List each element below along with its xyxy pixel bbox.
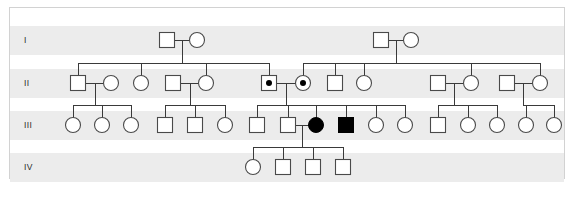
female-symbol bbox=[369, 118, 384, 133]
female-symbol bbox=[490, 118, 505, 133]
female-symbol bbox=[398, 118, 413, 133]
individual-iii16-female-unaffected[interactable] bbox=[519, 118, 534, 133]
female-symbol bbox=[95, 118, 110, 133]
figure-frame: IIIIIIIV bbox=[9, 7, 565, 179]
individual-iii10-male-affected[interactable] bbox=[339, 118, 354, 133]
individual-iii11-female-unaffected[interactable] bbox=[369, 118, 384, 133]
male-symbol bbox=[158, 118, 173, 133]
male-symbol bbox=[166, 76, 181, 91]
individual-iv2-male-unaffected[interactable] bbox=[276, 160, 291, 175]
individual-ii6-male-carrier[interactable] bbox=[262, 76, 277, 91]
female-symbol bbox=[547, 118, 562, 133]
individual-ii13-female-unaffected[interactable] bbox=[533, 76, 548, 91]
female-symbol bbox=[461, 118, 476, 133]
male-symbol bbox=[281, 118, 296, 133]
male-symbol bbox=[374, 33, 389, 48]
female-symbol bbox=[464, 76, 479, 91]
individual-i1-male-unaffected[interactable] bbox=[160, 33, 175, 48]
individual-ii10-male-unaffected[interactable] bbox=[431, 76, 446, 91]
female-symbol bbox=[357, 76, 372, 91]
male-symbol bbox=[500, 76, 515, 91]
individual-iii6-female-unaffected[interactable] bbox=[218, 118, 233, 133]
female-symbol bbox=[199, 76, 214, 91]
individual-iii3-female-unaffected[interactable] bbox=[124, 118, 139, 133]
individual-iii7-male-unaffected[interactable] bbox=[250, 118, 265, 133]
individual-ii7-female-carrier[interactable] bbox=[296, 76, 311, 91]
individual-iii14-female-unaffected[interactable] bbox=[461, 118, 476, 133]
carrier-dot-icon bbox=[300, 80, 306, 86]
individual-iii1-female-unaffected[interactable] bbox=[66, 118, 81, 133]
female-symbol bbox=[124, 118, 139, 133]
individual-ii2-female-unaffected[interactable] bbox=[104, 76, 119, 91]
male-symbol bbox=[276, 160, 291, 175]
individual-iv4-male-unaffected[interactable] bbox=[336, 160, 351, 175]
male-symbol bbox=[336, 160, 351, 175]
male-symbol bbox=[431, 76, 446, 91]
individual-iii9-female-affected[interactable] bbox=[309, 118, 324, 133]
male-symbol bbox=[188, 118, 203, 133]
individual-ii4-male-unaffected[interactable] bbox=[166, 76, 181, 91]
female-symbol bbox=[134, 76, 149, 91]
male-symbol bbox=[160, 33, 175, 48]
individual-ii5-female-unaffected[interactable] bbox=[199, 76, 214, 91]
individual-ii11-female-unaffected[interactable] bbox=[464, 76, 479, 91]
female-symbol bbox=[218, 118, 233, 133]
individual-ii1-male-unaffected[interactable] bbox=[71, 76, 86, 91]
individual-iii17-female-unaffected[interactable] bbox=[547, 118, 562, 133]
individual-iii2-female-unaffected[interactable] bbox=[95, 118, 110, 133]
individual-iv1-female-unaffected[interactable] bbox=[246, 160, 261, 175]
female-symbol bbox=[309, 118, 324, 133]
male-symbol bbox=[306, 160, 321, 175]
female-symbol bbox=[66, 118, 81, 133]
male-symbol bbox=[250, 118, 265, 133]
individual-iv3-male-unaffected[interactable] bbox=[306, 160, 321, 175]
individual-ii9-female-unaffected[interactable] bbox=[357, 76, 372, 91]
male-symbol bbox=[339, 118, 354, 133]
individual-i2-female-unaffected[interactable] bbox=[190, 33, 205, 48]
male-symbol bbox=[431, 118, 446, 133]
individual-iii12-female-unaffected[interactable] bbox=[398, 118, 413, 133]
female-symbol bbox=[533, 76, 548, 91]
individual-ii3-female-unaffected[interactable] bbox=[134, 76, 149, 91]
individual-iii8-male-unaffected[interactable] bbox=[281, 118, 296, 133]
male-symbol bbox=[328, 76, 343, 91]
pedigree-figure-page: IIIIIIIV bbox=[0, 0, 575, 197]
female-symbol bbox=[246, 160, 261, 175]
female-symbol bbox=[104, 76, 119, 91]
individual-iii15-female-unaffected[interactable] bbox=[490, 118, 505, 133]
female-symbol bbox=[190, 33, 205, 48]
pedigree-diagram bbox=[10, 8, 566, 180]
individual-iii5-male-unaffected[interactable] bbox=[188, 118, 203, 133]
individual-ii12-male-unaffected[interactable] bbox=[500, 76, 515, 91]
female-symbol bbox=[519, 118, 534, 133]
individual-i3-male-unaffected[interactable] bbox=[374, 33, 389, 48]
individual-iii4-male-unaffected[interactable] bbox=[158, 118, 173, 133]
individual-iii13-male-unaffected[interactable] bbox=[431, 118, 446, 133]
individual-ii8-male-unaffected[interactable] bbox=[328, 76, 343, 91]
individual-i4-female-unaffected[interactable] bbox=[404, 33, 419, 48]
male-symbol bbox=[71, 76, 86, 91]
carrier-dot-icon bbox=[266, 80, 272, 86]
female-symbol bbox=[404, 33, 419, 48]
